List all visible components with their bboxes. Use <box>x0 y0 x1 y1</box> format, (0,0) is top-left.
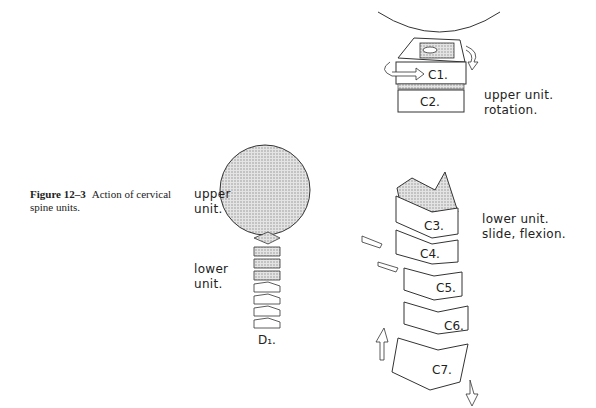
upper-unit-vertebrae <box>254 247 280 280</box>
lower-unit-slide-label: lower unit. slide, flexion. <box>482 212 566 242</box>
base-mark: D₁. <box>258 333 276 347</box>
c3-label: C3. <box>424 219 444 233</box>
rotation-arrow-right <box>466 46 478 70</box>
lower-unit-vertebrae <box>254 282 280 328</box>
skull-circle <box>220 145 310 235</box>
skull-arc <box>378 12 500 32</box>
c1-label: C1. <box>428 68 448 82</box>
upper-unit-rotation-label: upper unit. rotation. <box>484 88 553 118</box>
c7-label: C7. <box>432 363 452 377</box>
upper-unit-diagram: C1. C2. <box>378 12 500 112</box>
left-spine-diagram: D₁. <box>220 145 310 347</box>
c4-label: C4. <box>420 247 440 261</box>
figure-number: Figure 12–3 <box>30 188 86 200</box>
c5-label: C5. <box>436 281 456 295</box>
c6-label: C6. <box>444 319 464 333</box>
figure-caption: Figure 12–3Action of cervical spine unit… <box>30 188 180 214</box>
lower-unit-label-left: lower unit. <box>194 262 228 292</box>
c2-label: C2. <box>420 95 440 109</box>
upper-unit-label-left: upper unit. <box>194 187 231 217</box>
lower-unit-diagram: C3. C4. C5. C6. C7. <box>362 172 478 406</box>
